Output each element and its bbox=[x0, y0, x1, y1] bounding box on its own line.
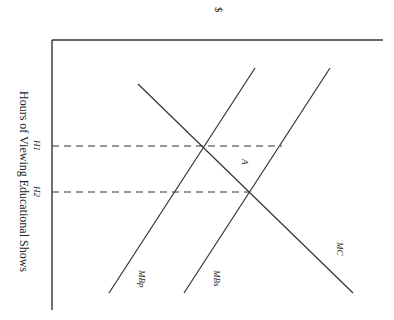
mbp-label: MBp bbox=[137, 269, 147, 288]
area-a-label: A bbox=[240, 158, 250, 165]
diagram-canvas: $ Hours of Viewing Educational Shows H1 … bbox=[0, 0, 394, 320]
mbs-label: MBs bbox=[212, 269, 222, 287]
dollar-axis-label: $ bbox=[213, 7, 225, 13]
mc-curve bbox=[138, 84, 353, 293]
h1-tick-label: H1 bbox=[32, 139, 42, 151]
mbs-curve bbox=[184, 68, 330, 293]
mbp-curve bbox=[109, 68, 255, 293]
h2-tick-label: H2 bbox=[32, 185, 42, 197]
mc-label: MC bbox=[335, 241, 345, 256]
economics-diagram: $ Hours of Viewing Educational Shows H1 … bbox=[0, 0, 394, 320]
quantity-axis-label: Hours of Viewing Educational Shows bbox=[17, 91, 31, 272]
